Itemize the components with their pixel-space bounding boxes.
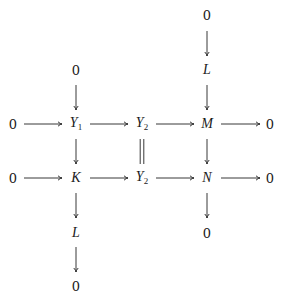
arrow-icon-row1_0l-Y1 xyxy=(24,122,62,126)
equals-icon-Y2a-Y2b xyxy=(140,139,144,164)
node-label: L xyxy=(72,225,80,240)
arrow-icon-row2_0l-K xyxy=(24,176,62,180)
node-L_top: L xyxy=(203,63,211,77)
node-label: L xyxy=(203,62,211,77)
node-label: 0 xyxy=(203,8,211,23)
node-label: 0 xyxy=(203,226,211,241)
node-row2_0l: 0 xyxy=(9,172,17,185)
arrow-icon-Y1-Y2a xyxy=(90,122,128,126)
arrow-icon-M-N xyxy=(205,139,209,164)
arrow-icon-top0_M-L_top xyxy=(205,31,209,56)
node-label: N xyxy=(202,170,211,185)
arrows-layer xyxy=(0,0,282,298)
node-row1_0l: 0 xyxy=(9,118,17,131)
node-label: 0 xyxy=(9,171,17,186)
arrow-icon-N-row2_0r xyxy=(221,176,260,180)
arrow-icon-L_bot-bot0_K xyxy=(74,247,78,272)
arrow-icon-Y2b-N xyxy=(156,176,194,180)
arrow-icon-N-bot0_N xyxy=(205,193,209,218)
arrow-icon-Y2a-M xyxy=(156,122,194,126)
node-label: 0 xyxy=(72,279,80,294)
node-N: N xyxy=(202,171,211,185)
commutative-diagram: 0L00Y1Y2M00KY2N00L0 xyxy=(0,0,282,298)
arrow-icon-Y1-K xyxy=(74,139,78,164)
arrow-icon-top0_Y1-Y1 xyxy=(74,85,78,110)
node-top0_Y1: 0 xyxy=(72,64,80,77)
arrow-icon-K-Y2b xyxy=(90,176,128,180)
node-M: M xyxy=(201,117,213,131)
node-label: Y xyxy=(70,115,78,130)
node-Y2a: Y2 xyxy=(136,116,148,132)
node-label: K xyxy=(71,170,80,185)
arrow-icon-L_top-M xyxy=(205,85,209,110)
node-subscript: 2 xyxy=(144,176,149,186)
node-subscript: 2 xyxy=(144,122,149,132)
node-top0_M: 0 xyxy=(203,9,211,22)
node-label: 0 xyxy=(266,171,274,186)
node-Y2b: Y2 xyxy=(136,170,148,186)
node-row2_0r: 0 xyxy=(266,172,274,185)
node-label: 0 xyxy=(9,117,17,132)
node-label: Y xyxy=(136,169,144,184)
node-K: K xyxy=(71,171,80,185)
arrow-icon-M-row1_0r xyxy=(221,122,260,126)
node-L_bot: L xyxy=(72,226,80,240)
node-row1_0r: 0 xyxy=(266,118,274,131)
node-label: 0 xyxy=(72,63,80,78)
node-label: Y xyxy=(136,115,144,130)
node-label: 0 xyxy=(266,117,274,132)
node-Y1: Y1 xyxy=(70,116,82,132)
node-bot0_N: 0 xyxy=(203,227,211,240)
arrow-icon-K-L_bot xyxy=(74,193,78,218)
node-subscript: 1 xyxy=(78,122,83,132)
node-bot0_K: 0 xyxy=(72,280,80,293)
node-label: M xyxy=(201,116,213,131)
